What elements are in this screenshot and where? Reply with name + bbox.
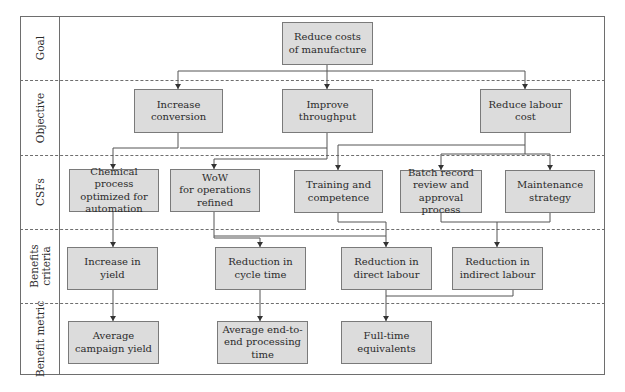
box-text: Average campaign yield: [75, 330, 152, 355]
box-text: WoW for operations refined: [179, 172, 251, 210]
box-text: Reduction in cycle time: [228, 256, 292, 281]
box-text: Average end-to- end processing time: [222, 324, 302, 362]
objective-box-increase-conversion: Increase conversion: [134, 89, 223, 133]
csf-box-chemical-process: Chemical process optimized for automatio…: [69, 169, 159, 212]
benefit-box-increase-yield: Increase in yield: [67, 247, 158, 290]
csf-box-maintenance-strategy: Maintenance strategy: [505, 170, 595, 213]
box-text: Chemical process optimized for automatio…: [72, 166, 156, 216]
benefit-box-reduction-direct-labour: Reduction in direct labour: [341, 247, 432, 290]
box-text: Reduce labour cost: [489, 99, 563, 124]
box-text: Improve throughput: [299, 99, 356, 124]
objective-box-reduce-labour-cost: Reduce labour cost: [480, 89, 571, 133]
box-text: Full-time equivalents: [357, 330, 415, 355]
csf-box-wow-operations: WoW for operations refined: [170, 169, 260, 212]
metric-box-average-campaign-yield: Average campaign yield: [68, 321, 159, 364]
box-text: Training and competence: [306, 179, 371, 204]
box-text: Reduction in indirect labour: [460, 256, 536, 281]
benefit-box-reduction-indirect-labour: Reduction in indirect labour: [452, 247, 543, 290]
csf-box-batch-record-review: Batch record review and approval process: [400, 170, 482, 213]
objective-box-improve-throughput: Improve throughput: [282, 89, 373, 133]
metric-box-average-processing-time: Average end-to- end processing time: [217, 321, 308, 364]
metric-box-full-time-equivalents: Full-time equivalents: [341, 321, 432, 364]
box-text: Batch record review and approval process: [403, 167, 479, 217]
box-text: Reduce costs of manufacture: [289, 31, 367, 56]
csf-box-training-competence: Training and competence: [294, 170, 383, 213]
benefit-box-reduction-cycle-time: Reduction in cycle time: [215, 247, 306, 290]
box-text: Increase conversion: [151, 99, 206, 124]
box-text: Reduction in direct labour: [354, 256, 420, 281]
goal-box-reduce-costs: Reduce costs of manufacture: [282, 22, 373, 65]
box-text: Increase in yield: [84, 256, 141, 281]
box-text: Maintenance strategy: [517, 179, 583, 204]
